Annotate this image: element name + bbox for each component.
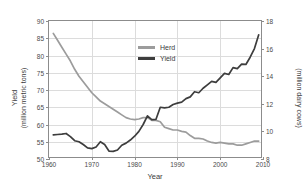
chart-figure: · · · 5055606570758085908101214161819601… <box>0 0 305 190</box>
plot-area: 5055606570758085908101214161819601970198… <box>48 20 262 158</box>
y-axis-right-tick-label: 10 <box>266 128 273 135</box>
y-axis-left-tick-label: 90 <box>37 18 44 25</box>
y-axis-right-tick-label: 16 <box>266 45 273 52</box>
y-axis-left-title-main: Yield <box>10 90 19 106</box>
legend-swatch-icon <box>138 46 155 49</box>
y-axis-right-title: Herd (million dairy cows) <box>295 43 305 153</box>
legend-item-herd[interactable]: Herd <box>138 42 202 53</box>
caption-text: · · · <box>52 0 64 2</box>
y-axis-left-tick-label: 75 <box>37 69 44 76</box>
x-axis-tick-label: 1960 <box>42 161 56 168</box>
y-axis-right-title-main: Herd <box>304 90 305 106</box>
y-axis-right-tick-label: 18 <box>266 18 273 25</box>
y-axis-left-title-sub: (million metric tons) <box>20 68 27 129</box>
y-axis-left-tick-label: 60 <box>37 121 44 128</box>
y-axis-left-tick-label: 65 <box>37 104 44 111</box>
x-axis-tick-label: 1990 <box>170 161 184 168</box>
legend-item-yield[interactable]: Yield <box>138 53 202 64</box>
y-axis-right-title-sub: (million dairy cows) <box>296 68 303 128</box>
y-axis-left-title: Yield (million metric tons) <box>10 43 28 153</box>
x-axis-title: Year <box>48 172 262 181</box>
legend-label: Yield <box>160 55 175 62</box>
y-axis-left-tick-label: 70 <box>37 87 44 94</box>
x-axis-tick-label: 2000 <box>213 161 227 168</box>
y-axis-left-tick-label: 55 <box>37 138 44 145</box>
y-axis-left-tick-label: 80 <box>37 52 44 59</box>
chart-legend: HerdYield <box>138 42 202 64</box>
y-axis-left-tick-label: 85 <box>37 35 44 42</box>
y-axis-right-tick-label: 12 <box>266 100 273 107</box>
legend-label: Herd <box>160 44 175 51</box>
x-axis-tick-label: 2010 <box>256 161 270 168</box>
x-axis-tick <box>263 157 264 160</box>
truncated-caption: · · · <box>0 0 305 8</box>
legend-swatch-icon <box>138 57 155 60</box>
x-axis-tick-label: 1970 <box>85 161 99 168</box>
x-axis-tick-label: 1980 <box>127 161 141 168</box>
y-axis-right-tick-label: 14 <box>266 73 273 80</box>
